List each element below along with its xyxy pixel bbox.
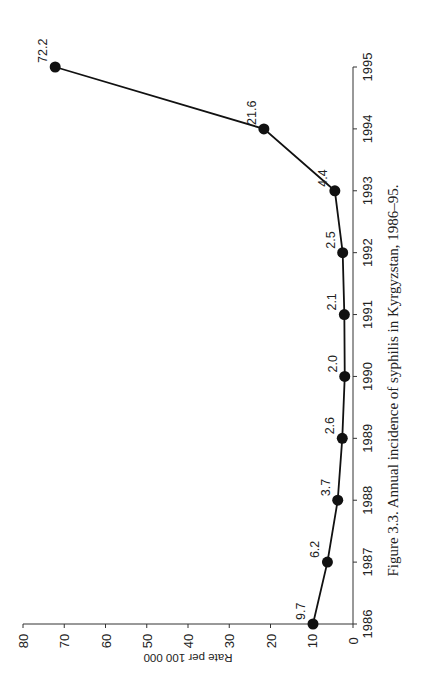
category-tick-label: 1989 [360,424,375,453]
value-tick-label: 50 [140,634,155,648]
value-tick-label: 30 [222,634,237,648]
data-label: 21.6 [245,101,259,125]
chart-canvas: 1986198719881989199019911992199319941995… [0,0,421,695]
value-tick-label: 70 [57,634,72,648]
category-tick-label: 1994 [360,114,375,143]
data-point-marker [50,62,61,73]
data-point-marker [337,433,348,444]
data-label: 2.5 [324,231,338,248]
data-label: 2.1 [325,293,339,310]
data-label: 2.6 [323,417,337,434]
data-label: 2.0 [326,355,340,372]
data-point-marker [258,123,269,134]
value-tick-label: 20 [264,634,279,648]
data-label: 4.4 [316,169,330,186]
category-tick-label: 1993 [360,176,375,205]
figure-caption: Figure 3.3. Annual incidence of syphilis… [385,184,401,576]
data-point-marker [322,557,333,568]
category-tick-label: 1995 [360,53,375,82]
value-tick-label: 0 [346,637,361,644]
data-label: 72.2 [36,39,50,63]
data-point-marker [337,247,348,258]
data-series [50,62,351,630]
category-tick-label: 1992 [360,238,375,267]
data-label: 3.7 [319,479,333,496]
value-tick-label: 10 [305,634,320,648]
category-tick-label: 1987 [360,548,375,577]
data-point-marker [332,495,343,506]
category-tick-label: 1986 [360,610,375,639]
data-point-marker [307,619,318,630]
data-label: 6.2 [308,541,322,558]
value-tick-label: 80 [16,634,31,648]
category-tick-label: 1991 [360,300,375,329]
data-point-marker [339,309,350,320]
data-label: 9.7 [294,603,308,620]
data-labels: 9.76.23.72.62.02.12.54.421.672.2 [36,39,340,620]
value-tick-label: 60 [99,634,114,648]
data-point-marker [329,185,340,196]
data-point-marker [339,371,350,382]
y-axis-title: Rate per 100 000 [144,652,233,664]
category-tick-label: 1990 [360,362,375,391]
category-tick-label: 1988 [360,486,375,515]
series-line [55,67,345,624]
value-tick-label: 40 [181,634,196,648]
